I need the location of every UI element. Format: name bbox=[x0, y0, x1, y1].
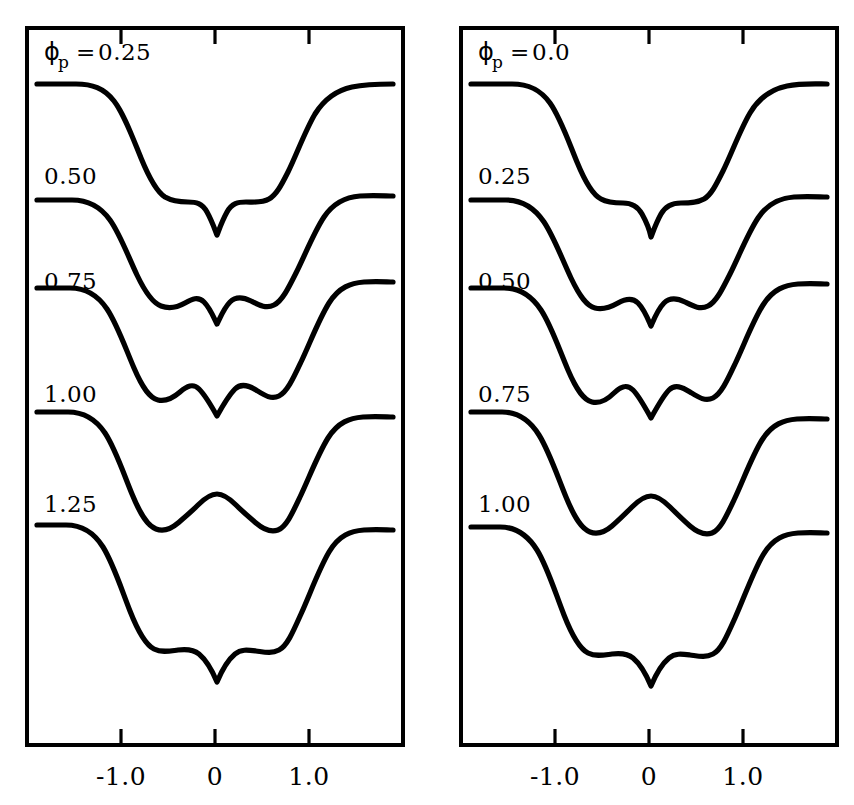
curve-label-right-1: 0.25 bbox=[478, 163, 531, 189]
right-panel: ϕ p = 0.0 0.25 0.50 0.75 1.00 -1.0 0 1.0 bbox=[461, 28, 837, 791]
axis-label-left-zero: 0 bbox=[207, 762, 223, 791]
header-equals-sign: = bbox=[76, 39, 96, 65]
spectrum-curve-left-1 bbox=[37, 196, 393, 324]
curve-label-left-1: 0.50 bbox=[44, 163, 97, 189]
right-panel-top-ticks bbox=[555, 28, 743, 44]
axis-label-left-pos1: 1.0 bbox=[288, 762, 329, 791]
left-panel-bottom-ticks bbox=[121, 729, 309, 745]
curve-label-right-4: 1.00 bbox=[478, 491, 531, 517]
figure-root: ϕ p = 0.25 0.50 0.75 1.00 1.25 -1.0 0 1. bbox=[0, 0, 854, 805]
figure-canvas: ϕ p = 0.25 0.50 0.75 1.00 1.25 -1.0 0 1. bbox=[0, 0, 854, 805]
spectrum-curve-right-4 bbox=[471, 527, 827, 686]
right-panel-bottom-ticks bbox=[555, 729, 743, 745]
header-value-label: 0.25 bbox=[98, 39, 151, 65]
phi-subscript-label-right: p bbox=[492, 52, 503, 72]
header-value-label-right: 0.0 bbox=[532, 39, 570, 65]
axis-label-right-zero: 0 bbox=[641, 762, 657, 791]
left-panel: ϕ p = 0.25 0.50 0.75 1.00 1.25 -1.0 0 1. bbox=[27, 28, 403, 791]
axis-label-right-pos1: 1.0 bbox=[722, 762, 763, 791]
spectrum-curve-right-0 bbox=[471, 84, 827, 237]
right-panel-header-label: ϕ p = 0.0 bbox=[478, 38, 570, 72]
curve-label-left-3: 1.00 bbox=[44, 381, 97, 407]
phi-subscript-label: p bbox=[58, 52, 69, 72]
spectrum-curve-left-0 bbox=[37, 84, 393, 235]
left-panel-header-label: ϕ p = 0.25 bbox=[44, 38, 151, 72]
axis-label-left-neg1: -1.0 bbox=[96, 762, 146, 791]
curve-label-right-3: 0.75 bbox=[478, 381, 531, 407]
spectrum-curve-right-1 bbox=[471, 197, 827, 326]
curve-label-left-4: 1.25 bbox=[44, 491, 97, 517]
spectrum-curve-left-4 bbox=[37, 525, 393, 682]
header-equals-sign-right: = bbox=[510, 39, 530, 65]
axis-label-right-neg1: -1.0 bbox=[530, 762, 580, 791]
